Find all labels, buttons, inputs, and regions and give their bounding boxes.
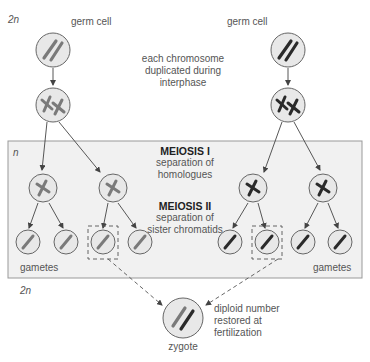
meiosis-i-note: MEIOSIS I separation of homologues [135, 145, 235, 181]
gametes-label-right: gametes [313, 262, 351, 274]
fertilization-note-line: diploid number [214, 303, 280, 315]
ploidy-label-box: n [13, 147, 19, 159]
zygote-label: zygote [153, 341, 213, 353]
fertilization-note: diploid number restored at fertilization [214, 303, 280, 339]
meiosis-ii-line: sister chromatids [135, 224, 235, 236]
gametes-label-left: gametes [20, 262, 58, 274]
duplication-note-line: each chromosome [128, 53, 238, 65]
germ-cell-label-left: germ cell [71, 16, 112, 28]
duplication-note: each chromosome duplicated during interp… [128, 53, 238, 89]
meiosis-i-line: homologues [135, 169, 235, 181]
meiosis-ii-note: MEIOSIS II separation of sister chromati… [135, 200, 235, 236]
meiosis-i-line: separation of [135, 157, 235, 169]
fertilization-note-line: restored at [214, 315, 280, 327]
germ-cell-label-right: germ cell [227, 16, 268, 28]
meiosis-ii-title: MEIOSIS II [135, 200, 235, 212]
fertilization-note-line: fertilization [214, 327, 280, 339]
meiosis-diagram: 2n germ cell germ cell each chromosome d… [0, 0, 370, 362]
duplication-note-line: interphase [128, 77, 238, 89]
ploidy-label-top: 2n [8, 14, 19, 26]
meiosis-i-title: MEIOSIS I [135, 145, 235, 157]
duplication-note-line: duplicated during [128, 65, 238, 77]
meiosis-ii-line: separation of [135, 212, 235, 224]
ploidy-label-bottom: 2n [20, 285, 31, 297]
